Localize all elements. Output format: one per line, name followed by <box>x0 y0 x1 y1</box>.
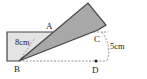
geometry-diagram: A B C D 8cm 5cm <box>0 0 147 79</box>
label-b: B <box>14 64 20 74</box>
label-c: C <box>94 34 100 44</box>
point-d-dot <box>95 60 98 63</box>
dashed-arc-height <box>102 32 109 61</box>
label-8cm: 8cm <box>15 37 30 47</box>
label-a: A <box>46 21 53 31</box>
label-d: D <box>92 65 99 75</box>
label-5cm: 5cm <box>110 41 125 51</box>
